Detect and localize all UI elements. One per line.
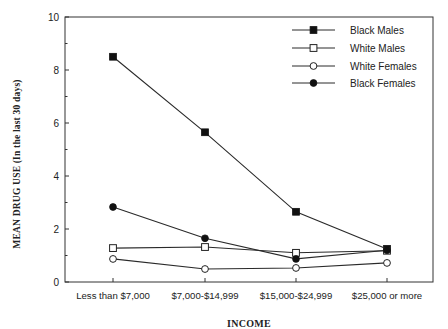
data-point	[110, 53, 117, 60]
y-axis-ticks: 0246810	[48, 12, 69, 288]
legend-label: Black Females	[350, 78, 416, 89]
data-point	[110, 256, 117, 263]
data-point	[293, 265, 300, 272]
legend-label: White Males	[350, 43, 405, 54]
data-point	[202, 235, 209, 242]
data-point	[110, 245, 117, 252]
data-point	[202, 129, 209, 136]
data-point	[384, 247, 391, 254]
data-point	[293, 208, 300, 215]
legend-item: White Males	[292, 43, 405, 54]
y-tick-label: 0	[53, 277, 59, 288]
series-line	[113, 247, 387, 253]
series-line	[113, 57, 387, 249]
legend-marker-open-circle-icon	[310, 63, 317, 70]
x-tick-label: Less than $7,000	[76, 290, 150, 301]
legend: Black MalesWhite MalesWhite FemalesBlack…	[292, 25, 417, 89]
y-tick-label: 2	[53, 224, 59, 235]
legend-marker-open-square-icon	[310, 45, 317, 52]
x-axis-label: INCOME	[227, 318, 271, 329]
data-point	[293, 256, 300, 263]
data-point	[384, 260, 391, 267]
x-tick-label: $25,000 or more	[352, 290, 422, 301]
legend-item: White Females	[292, 61, 417, 72]
x-tick-label: $15,000-$24,999	[260, 290, 333, 301]
y-tick-label: 8	[53, 65, 59, 76]
y-tick-label: 4	[53, 171, 59, 182]
legend-label: White Females	[350, 61, 417, 72]
y-tick-label: 10	[48, 12, 60, 23]
legend-marker-filled-circle-icon	[310, 80, 317, 87]
legend-item: Black Males	[292, 25, 404, 36]
plot-frame	[65, 17, 433, 282]
x-tick-label: $7,000-$14,999	[171, 290, 238, 301]
data-point	[202, 266, 209, 273]
series-line	[113, 259, 387, 269]
series-black-males	[110, 53, 391, 252]
plot-border	[65, 17, 433, 282]
legend-marker-filled-square-icon	[310, 27, 317, 34]
data-point	[110, 204, 117, 211]
x-axis-ticks: Less than $7,000$7,000-$14,999$15,000-$2…	[76, 278, 422, 301]
data-series	[110, 53, 391, 272]
y-tick-label: 6	[53, 118, 59, 129]
legend-item: Black Females	[292, 78, 416, 89]
data-point	[202, 244, 209, 251]
series-white-females	[110, 256, 391, 273]
legend-label: Black Males	[350, 25, 404, 36]
y-axis-label: MEAN DRUG USE (In the last 30 days)	[12, 79, 22, 248]
